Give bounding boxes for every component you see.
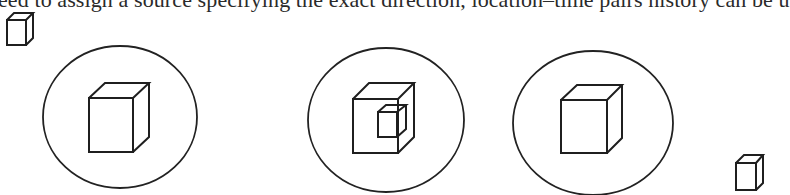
cube-in-circle-3-icon (561, 85, 622, 153)
small-cube-bottom-right-icon (736, 155, 763, 190)
circle-3-group (513, 51, 673, 195)
circle-1-group (43, 46, 197, 188)
circle-2-group (308, 48, 464, 192)
circle-1 (43, 46, 197, 188)
nested-small-cube-icon (378, 105, 406, 137)
small-cube-top-left-icon (7, 13, 33, 45)
circle-3 (513, 51, 673, 195)
cube-in-circle-1-icon (89, 83, 149, 152)
